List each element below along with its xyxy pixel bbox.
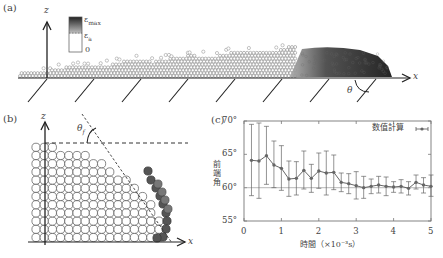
y-tick-label: 60° (222, 183, 237, 192)
colorbar-max-label: εmax (84, 16, 101, 26)
particle-grid-b (32, 143, 172, 242)
ground-hatching (28, 79, 376, 102)
y-tick-label: 70° (222, 116, 237, 125)
chart-frame (244, 121, 431, 221)
chart-ticks (244, 121, 431, 221)
axis-label-z-a: z (44, 6, 49, 15)
colorbar-threshold-label: εa (84, 32, 92, 42)
legend-label: 数值計算 (372, 124, 404, 132)
panel-label-a: (a) (3, 3, 17, 13)
max-subscript: max (88, 19, 101, 26)
panel-b (28, 114, 188, 246)
colorbar-zero-label: 0 (85, 46, 90, 54)
x-tick-label: 1 (278, 227, 283, 236)
x-tick-label: 2 (316, 227, 321, 236)
y-tick-label: 55° (222, 216, 237, 225)
y-axis-label: 前端角 (211, 160, 219, 187)
panel-label-b: (b) (3, 114, 17, 124)
x-tick-label: 4 (391, 227, 396, 236)
x-tick-label: 3 (353, 227, 358, 236)
angle-arc-theta-f (87, 128, 96, 143)
panel-c-chart (244, 121, 434, 221)
f-subscript: f (82, 128, 84, 135)
x-tick-label: 5 (428, 227, 433, 236)
legend-marker (416, 127, 428, 131)
x-axis-label: 時間（×10⁻³s） (300, 241, 360, 249)
x-tick-label: 0 (241, 227, 246, 236)
particle-pile-a (19, 44, 297, 78)
colorbar (69, 17, 82, 52)
axis-label-z-b: z (41, 112, 46, 121)
y-tick-label: 65° (222, 149, 237, 158)
a-subscript: a (88, 35, 92, 42)
angle-label-theta-f: θf (77, 124, 85, 135)
axis-label-x-b: x (188, 237, 193, 246)
axis-label-x-a: x (413, 72, 418, 81)
angle-label-theta: θ (347, 86, 352, 95)
strain-zone-a (290, 47, 392, 77)
